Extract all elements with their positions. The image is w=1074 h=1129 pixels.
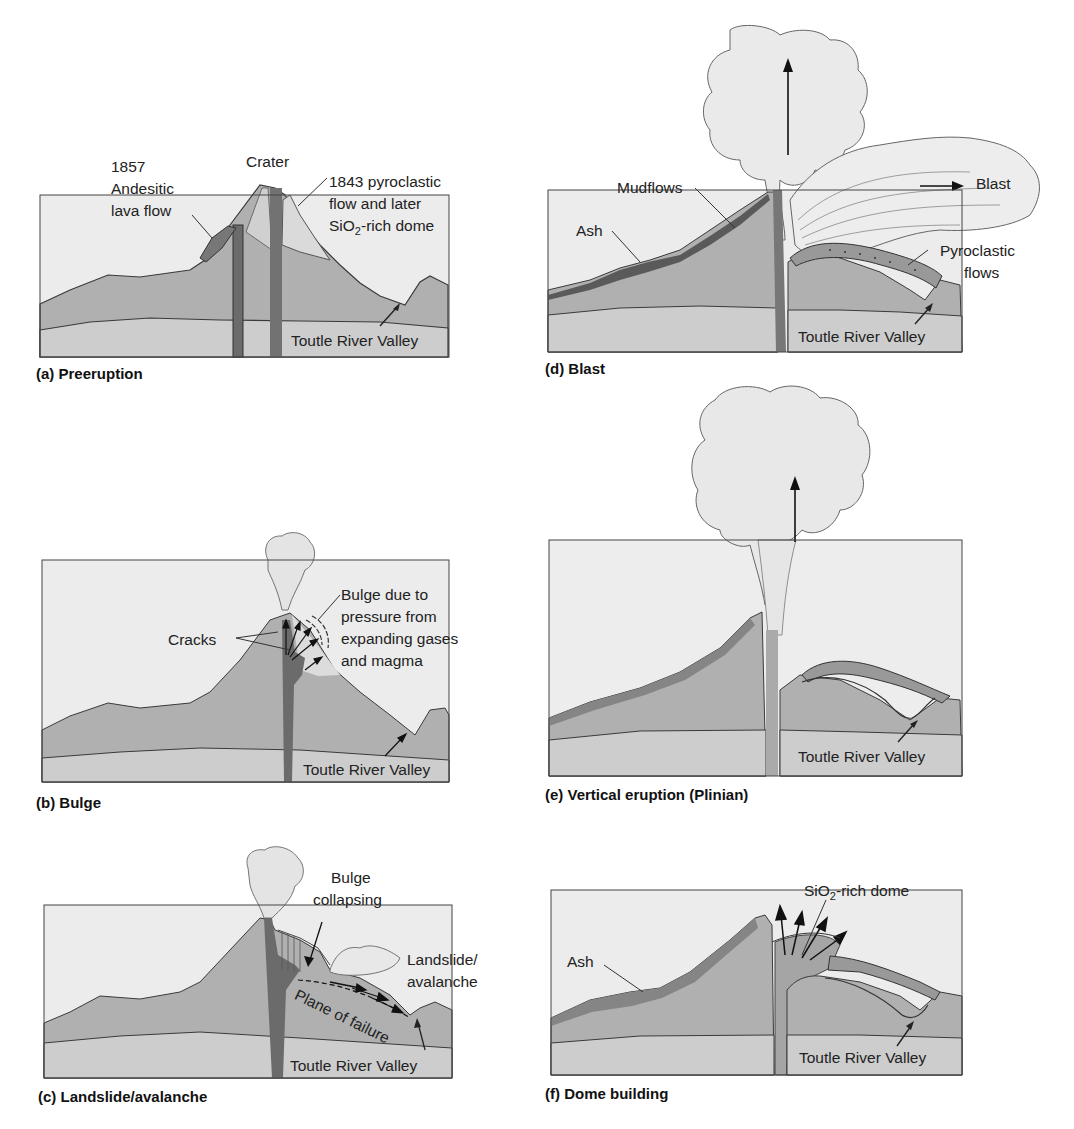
label-bulge: Bulge bbox=[331, 868, 371, 887]
label-collapsing: collapsing bbox=[313, 890, 382, 909]
panel-b-bulge: Cracks Bulge due to pressure from expand… bbox=[0, 380, 540, 760]
panel-f-illustration bbox=[540, 760, 1074, 1129]
label-sio2-rich-dome: SiO2-rich dome bbox=[804, 881, 909, 906]
panel-a-illustration bbox=[0, 0, 540, 380]
panel-e-illustration bbox=[540, 380, 1074, 800]
panel-d-blast: Mudflows Ash Blast Pyroclastic flows Tou… bbox=[540, 0, 1074, 380]
label-ash: Ash bbox=[576, 221, 603, 240]
label-blast: Blast bbox=[976, 174, 1010, 193]
label-cracks: Cracks bbox=[168, 630, 216, 649]
label-ash: Ash bbox=[567, 952, 594, 971]
caption-d: (d) Blast bbox=[545, 360, 605, 377]
label-1843-pyroclastic: 1843 pyroclastic bbox=[329, 172, 441, 191]
caption-c: (c) Landslide/avalanche bbox=[38, 1088, 207, 1105]
label-expanding-gases: expanding gases bbox=[341, 629, 458, 648]
label-pyroclastic: Pyroclastic bbox=[940, 241, 1015, 260]
label-toutle-river-valley: Toutle River Valley bbox=[799, 1048, 926, 1067]
label-toutle-river-valley: Toutle River Valley bbox=[798, 327, 925, 346]
label-lava-flow: lava flow bbox=[111, 201, 171, 220]
label-1857: 1857 bbox=[111, 157, 145, 176]
panel-c-illustration bbox=[0, 760, 540, 1129]
label-sio2-rich-dome: SiO2-rich dome bbox=[329, 216, 434, 241]
caption-f: (f) Dome building bbox=[545, 1085, 668, 1102]
label-pressure-from: pressure from bbox=[341, 607, 437, 626]
panel-b-illustration bbox=[0, 380, 540, 810]
label-landslide: Landslide/ bbox=[407, 950, 478, 969]
label-and-magma: and magma bbox=[341, 651, 423, 670]
label-mudflows: Mudflows bbox=[617, 178, 682, 197]
label-crater: Crater bbox=[246, 152, 289, 171]
label-toutle-river-valley: Toutle River Valley bbox=[291, 331, 418, 350]
panel-a-preeruption: 1857 Andesitic lava flow Crater 1843 pyr… bbox=[0, 0, 540, 380]
label-flows: flows bbox=[964, 263, 999, 282]
label-avalanche: avalanche bbox=[407, 972, 478, 991]
label-toutle-river-valley: Toutle River Valley bbox=[290, 1056, 417, 1075]
label-bulge-due-to: Bulge due to bbox=[341, 585, 428, 604]
panel-c-landslide: Bulge collapsing Landslide/ avalanche Pl… bbox=[0, 760, 540, 1129]
label-andesitic: Andesitic bbox=[111, 179, 174, 198]
label-flow-and-later: flow and later bbox=[329, 194, 421, 213]
panel-f-dome-building: SiO2-rich dome Ash Toutle River Valley (… bbox=[540, 760, 1074, 1129]
panel-e-vertical-eruption: Toutle River Valley (e) Vertical eruptio… bbox=[540, 380, 1074, 800]
